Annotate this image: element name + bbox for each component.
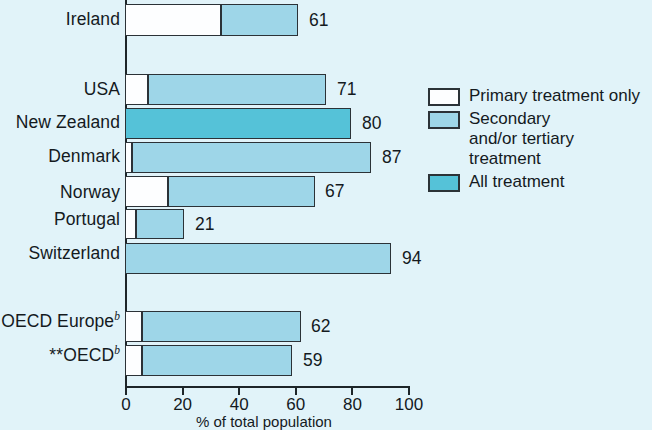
bar-segment-primary (125, 176, 168, 207)
legend-item-all-treatment[interactable]: All treatment (428, 172, 650, 192)
bar-row-usa[interactable] (125, 74, 326, 105)
bar-row-denmark[interactable] (125, 142, 371, 173)
legend-label: All treatment (469, 172, 564, 192)
category-label-text: USA (84, 79, 120, 99)
bar-segment-primary (125, 311, 142, 342)
legend-label: Secondary and/or tertiary treatment (469, 109, 650, 169)
legend-item-primary-treatment-only[interactable]: Primary treatment only (428, 86, 650, 106)
category-label-new-zealand: New Zealand (0, 114, 120, 132)
bar-value-new-zealand: 80 (362, 115, 381, 133)
x-axis-tick-label-0: 0 (121, 396, 130, 413)
bar-row-oecd-europe[interactable] (125, 311, 301, 342)
x-axis-tick-100 (408, 388, 410, 395)
bar-value-oecd-europe: 62 (311, 318, 330, 336)
bar-segment-primary (125, 209, 136, 239)
bar-segment-secondary (136, 209, 184, 239)
bar-segment-primary (125, 4, 221, 36)
category-label-oecd: **OECDb (0, 347, 120, 365)
footnote-marker-b: b (114, 310, 120, 322)
category-label-ireland: Ireland (0, 11, 120, 29)
bar-value-ireland: 61 (309, 12, 328, 30)
bar-value-usa: 71 (337, 81, 356, 99)
legend-swatch-icon-secondary (428, 111, 460, 129)
x-axis-tick-0 (125, 388, 127, 395)
x-axis-tick-20 (182, 388, 184, 395)
x-axis-line (125, 386, 410, 388)
bar-value-norway: 67 (325, 183, 344, 201)
bar-value-switzerland: 94 (402, 250, 421, 268)
legend-item-secondary-tertiary-treatment[interactable]: Secondary and/or tertiary treatment (428, 109, 650, 169)
x-axis-tick-40 (238, 388, 240, 395)
bar-segment-secondary (221, 4, 297, 36)
category-label-usa: USA (0, 81, 120, 99)
category-label-text: **OECD (49, 345, 114, 365)
x-axis-tick-label-100: 100 (395, 396, 423, 413)
x-axis-tick-label-20: 20 (173, 396, 192, 413)
bar-row-norway[interactable] (125, 176, 315, 207)
bar-row-portugal[interactable] (125, 209, 184, 239)
bar-segment-secondary (142, 311, 301, 342)
bar-row-switzerland[interactable] (125, 243, 391, 274)
legend-label: Primary treatment only (469, 86, 640, 106)
category-label-text: Portugal (54, 209, 120, 229)
legend-swatch-icon-primary (428, 88, 460, 106)
bar-row-new-zealand[interactable] (125, 108, 351, 139)
legend-swatch-icon-all (428, 174, 460, 192)
x-axis-tick-label-80: 80 (343, 396, 362, 413)
bar-segment-primary (125, 74, 148, 105)
x-axis-tick-80 (351, 388, 353, 395)
chart-legend: Primary treatment only Secondary and/or … (428, 86, 650, 195)
category-label-column: Ireland USA New Zealand Denmark Norway P… (0, 0, 120, 428)
category-label-norway: Norway (0, 184, 120, 202)
bar-segment-primary (125, 345, 142, 376)
x-axis-tick-label-60: 60 (286, 396, 305, 413)
x-axis-tick-60 (295, 388, 297, 395)
bar-row-ireland[interactable] (125, 4, 298, 36)
bar-segment-secondary (125, 243, 391, 274)
category-label-switzerland: Switzerland (0, 245, 120, 263)
x-axis-tick-label-40: 40 (230, 396, 249, 413)
x-axis-caption: % of total population (196, 414, 332, 429)
category-label-oecd-europe: OECD Europeb (0, 313, 120, 331)
category-label-text: Switzerland (28, 243, 120, 263)
category-label-text: New Zealand (16, 112, 120, 132)
category-label-text: Norway (60, 182, 120, 202)
bar-value-oecd: 59 (303, 352, 322, 370)
bar-segment-secondary (132, 142, 372, 173)
category-label-text: OECD Europe (1, 311, 114, 331)
bar-segment-secondary (148, 74, 326, 105)
category-label-text: Denmark (48, 146, 120, 166)
bar-segment-all (125, 108, 351, 139)
category-label-portugal: Portugal (0, 211, 120, 229)
bar-row-oecd[interactable] (125, 345, 292, 376)
plot-area: 0 20 40 60 80 100 61 71 80 87 (125, 0, 408, 386)
bar-value-denmark: 87 (382, 149, 401, 167)
footnote-marker-b: b (114, 344, 120, 356)
bar-segment-secondary (142, 345, 292, 376)
bar-value-portugal: 21 (195, 216, 214, 234)
category-label-denmark: Denmark (0, 148, 120, 166)
bar-segment-secondary (168, 176, 315, 207)
category-label-text: Ireland (66, 9, 120, 29)
